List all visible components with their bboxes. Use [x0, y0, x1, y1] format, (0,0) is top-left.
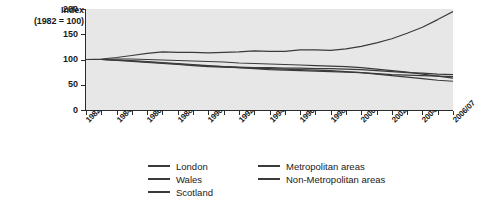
chart-legend: LondonWalesScotland Metropolitan areasNo…: [0, 160, 453, 200]
legend-label: London: [176, 161, 208, 172]
legend-item-london[interactable]: London: [148, 160, 213, 172]
series-line-london: [86, 12, 453, 60]
figure-caption: [72, 201, 402, 207]
series-lines: [86, 9, 453, 110]
plot-area: [86, 9, 453, 110]
y-axis-tick-50: 50: [52, 80, 78, 89]
y-axis-title-line2: (1982 = 100): [0, 16, 84, 27]
y-axis-tickmark: [81, 85, 85, 86]
y-axis-tickmark: [81, 60, 85, 61]
legend-item-non-metropolitan-areas[interactable]: Non-Metropolitan areas: [258, 173, 385, 185]
y-axis-tick-100: 100: [52, 55, 78, 64]
legend-item-scotland[interactable]: Scotland: [148, 186, 213, 198]
y-axis-tickmark: [81, 34, 85, 35]
x-axis-label-2006-07: 2006/07: [451, 99, 477, 125]
legend-swatch-icon: [148, 165, 170, 167]
legend-item-wales[interactable]: Wales: [148, 173, 213, 185]
y-axis-tick-200: 200: [52, 5, 78, 14]
y-axis-tick-0: 0: [52, 106, 78, 115]
legend-column-1: LondonWalesScotland: [148, 160, 213, 199]
legend-swatch-icon: [258, 178, 280, 180]
legend-label: Non-Metropolitan areas: [286, 174, 385, 185]
legend-label: Wales: [176, 174, 202, 185]
y-axis-tickmark: [81, 110, 85, 111]
series-line-non-metropolitan-areas: [86, 60, 453, 75]
y-axis-tick-150: 150: [52, 30, 78, 39]
legend-item-metropolitan-areas[interactable]: Metropolitan areas: [258, 160, 385, 172]
legend-swatch-icon: [148, 178, 170, 180]
legend-label: Metropolitan areas: [286, 161, 365, 172]
legend-label: Scotland: [176, 187, 213, 198]
y-axis-tickmark: [81, 9, 85, 10]
legend-swatch-icon: [258, 165, 280, 167]
legend-column-2: Metropolitan areasNon-Metropolitan areas: [258, 160, 385, 186]
series-line-scotland: [86, 60, 453, 82]
legend-swatch-icon: [148, 191, 170, 193]
